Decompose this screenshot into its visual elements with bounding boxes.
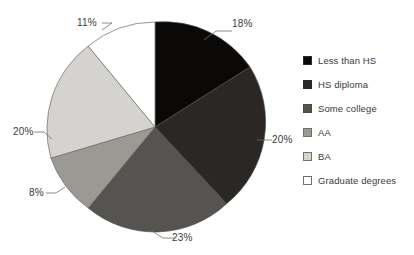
data-label-18: 18%	[232, 18, 253, 29]
legend-swatch-icon-ba	[303, 152, 312, 161]
legend-item-some-college[interactable]: Some college	[303, 96, 414, 120]
legend-swatch-icon-aa	[303, 128, 312, 137]
legend-swatch-icon-hs-diploma	[303, 80, 312, 89]
legend-item-less-than-hs[interactable]: Less than HS	[303, 48, 414, 72]
legend-item-graduate-degrees[interactable]: Graduate degrees	[303, 168, 414, 192]
pie-chart-figure: 18% 20% 23% 8% 20% 11% Less than HS HS d…	[0, 0, 414, 255]
legend-label-graduate-degrees: Graduate degrees	[318, 175, 396, 186]
chart-legend: Less than HS HS diploma Some college AA …	[303, 48, 414, 192]
legend-label-hs-diploma: HS diploma	[318, 79, 368, 90]
legend-swatch-icon-some-college	[303, 104, 312, 113]
legend-label-aa: AA	[318, 127, 331, 138]
data-label-8: 8%	[29, 187, 44, 198]
data-label-23: 23%	[172, 232, 193, 243]
legend-item-hs-diploma[interactable]: HS diploma	[303, 72, 414, 96]
legend-item-ba[interactable]: BA	[303, 144, 414, 168]
leader-line-11	[102, 23, 112, 30]
legend-label-some-college: Some college	[318, 103, 377, 114]
legend-label-less-than-hs: Less than HS	[318, 55, 376, 66]
pie-chart-plot-area: 18% 20% 23% 8% 20% 11%	[0, 0, 300, 255]
data-label-20-right: 20%	[272, 134, 293, 145]
legend-swatch-icon-less-than-hs	[303, 56, 312, 65]
data-label-20-left: 20%	[13, 126, 34, 137]
legend-swatch-icon-graduate-degrees	[303, 176, 312, 185]
leader-line-8	[46, 187, 65, 193]
legend-label-ba: BA	[318, 151, 331, 162]
data-label-11: 11%	[77, 17, 97, 28]
pie-svg	[0, 0, 300, 255]
legend-item-aa[interactable]: AA	[303, 120, 414, 144]
